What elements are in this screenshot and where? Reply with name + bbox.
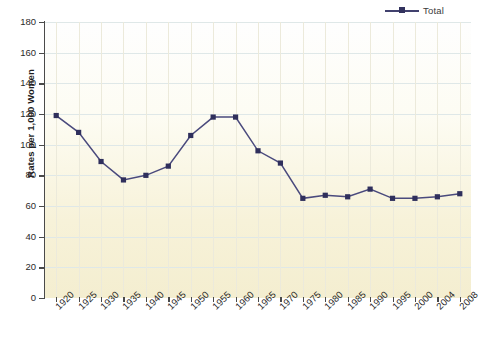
y-axis-tick-mark — [39, 53, 45, 54]
y-axis-tick-label: 60 — [10, 200, 36, 211]
y-axis-tick-mark — [39, 267, 45, 268]
y-axis-tick-mark — [39, 237, 45, 238]
data-point-marker — [323, 193, 328, 198]
plot-area — [45, 22, 471, 298]
data-point-marker — [188, 133, 193, 138]
data-point-marker — [255, 148, 260, 153]
data-point-marker — [166, 164, 171, 169]
data-point-marker — [300, 196, 305, 201]
series-line-total — [56, 116, 460, 199]
data-point-marker — [278, 160, 283, 165]
y-axis-tick-mark — [39, 22, 45, 23]
y-axis-tick-label: 140 — [10, 77, 36, 88]
y-axis-tick-mark — [39, 83, 45, 84]
data-point-marker — [412, 196, 417, 201]
y-axis-tick-label: 120 — [10, 108, 36, 119]
data-point-marker — [121, 177, 126, 182]
y-axis-tick-mark — [39, 298, 45, 299]
y-axis-tick-label: 160 — [10, 47, 36, 58]
y-axis-tick-mark — [39, 175, 45, 176]
chart-legend: Total — [385, 4, 444, 18]
data-point-marker — [457, 191, 462, 196]
data-point-marker — [143, 173, 148, 178]
series-total — [45, 22, 471, 298]
legend-label-total: Total — [423, 6, 444, 16]
line-chart: Total Rates per 1,000 Women 020406080100… — [0, 0, 479, 338]
y-axis-tick-label: 20 — [10, 261, 36, 272]
data-point-marker — [390, 196, 395, 201]
data-point-marker — [345, 194, 350, 199]
data-point-marker — [211, 114, 216, 119]
y-axis-tick-label: 40 — [10, 231, 36, 242]
y-axis-tick-mark — [39, 206, 45, 207]
y-axis-tick-label: 0 — [10, 292, 36, 303]
y-axis-tick-label: 180 — [10, 16, 36, 27]
y-axis-tick-label: 100 — [10, 139, 36, 150]
data-point-marker — [233, 114, 238, 119]
data-point-marker — [368, 187, 373, 192]
data-point-marker — [76, 130, 81, 135]
legend-square-marker-icon — [399, 7, 405, 13]
y-axis-tick-mark — [39, 114, 45, 115]
y-axis-tick-mark — [39, 145, 45, 146]
data-point-marker — [54, 113, 59, 118]
data-point-marker — [98, 159, 103, 164]
legend-swatch-total — [385, 6, 419, 16]
data-point-marker — [435, 194, 440, 199]
y-axis-tick-label: 80 — [10, 169, 36, 180]
